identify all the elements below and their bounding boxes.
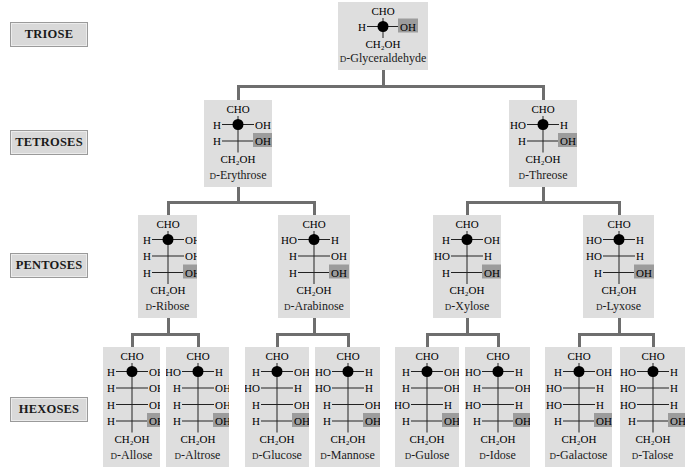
right-substituent: OH <box>515 382 530 394</box>
left-substituent: HO <box>465 366 481 378</box>
left-substituent: H <box>107 415 115 427</box>
right-substituent: OH <box>149 415 160 427</box>
sugar-talose: CHOHOHHOHHOHHOHCH₂OHD-Talose <box>620 347 685 467</box>
left-substituent: H <box>594 267 602 279</box>
stereocenter-dot-icon <box>462 234 473 245</box>
left-substituent: H <box>358 21 366 33</box>
aldehyde-group: CHO <box>607 218 630 230</box>
right-substituent: OH <box>484 234 500 246</box>
sugar-mannose: CHOHOHHOHHOHHOHCH₂OHD-Mannose <box>315 347 380 467</box>
connector-line <box>466 201 469 215</box>
right-substituent: H <box>215 366 223 378</box>
sugar-name: D-Glyceraldehyde <box>338 51 428 66</box>
right-substituent: H <box>294 382 302 394</box>
connector-line <box>197 333 200 347</box>
connector-line <box>313 201 316 215</box>
connector-line <box>652 333 655 347</box>
left-substituent: H <box>213 119 221 131</box>
left-substituent: HO <box>546 399 562 411</box>
left-substituent: HO <box>245 382 260 394</box>
right-substituent: OH <box>149 382 160 394</box>
right-substituent: OH <box>149 399 160 411</box>
left-substituent: HO <box>434 250 450 262</box>
level-label-pentoses: PENTOSES <box>10 253 88 278</box>
stereocenter-dot-icon <box>163 234 174 245</box>
connector-line <box>276 333 350 336</box>
aldehyde-group: CHO <box>486 350 509 362</box>
left-substituent: H <box>628 415 636 427</box>
connector-line <box>466 318 469 334</box>
hydroxymethyl-group: CH₂OH <box>561 433 596 445</box>
left-substituent: H <box>143 267 151 279</box>
aldehyde-group: CHO <box>641 350 664 362</box>
left-substituent: HO <box>586 234 602 246</box>
right-substituent: OH <box>215 415 229 427</box>
right-substituent: OH <box>515 415 530 427</box>
aldehyde-group: CHO <box>302 218 325 230</box>
connector-line <box>347 333 350 347</box>
sugar-name: D-Glucose <box>245 448 309 463</box>
right-substituent: H <box>670 399 678 411</box>
right-substituent: H <box>484 250 492 262</box>
hydroxymethyl-group: CH₂OH <box>180 433 215 445</box>
stereocenter-dot-icon <box>422 366 433 377</box>
left-substituent: H <box>143 234 151 246</box>
right-substituent: OH <box>560 135 576 147</box>
left-substituent: H <box>252 399 260 411</box>
left-substituent: H <box>442 267 450 279</box>
left-substituent: HO <box>620 399 636 411</box>
right-substituent: OH <box>400 21 416 33</box>
right-substituent: H <box>515 366 523 378</box>
right-substituent: H <box>331 234 339 246</box>
left-substituent: H <box>473 382 481 394</box>
right-substituent: OH <box>294 399 309 411</box>
sugar-name: D-Gulose <box>395 448 459 463</box>
aldehyde-group: CHO <box>371 5 394 17</box>
hydroxymethyl-group: CH₂OH <box>114 433 149 445</box>
sugar-name: D-Galactose <box>545 448 612 463</box>
left-substituent: H <box>213 135 221 147</box>
hydroxymethyl-group: CH₂OH <box>409 433 444 445</box>
left-substituent: HO <box>281 234 297 246</box>
connector-line <box>618 201 621 215</box>
left-substituent: HO <box>620 366 636 378</box>
aldehyde-group: CHO <box>265 350 288 362</box>
sugar-glucose: CHOHOHHOHHOHHOHCH₂OHD-Glucose <box>245 347 309 467</box>
connector-line <box>313 318 316 334</box>
aldehyde-group: CHO <box>455 218 478 230</box>
sugar-name: D-Altrose <box>166 448 229 463</box>
sugar-name: D-Allose <box>103 448 160 463</box>
aldehyde-group: CHO <box>415 350 438 362</box>
stereocenter-dot-icon <box>574 366 585 377</box>
connector-line <box>382 70 385 86</box>
right-substituent: OH <box>365 415 380 427</box>
stereocenter-dot-icon <box>493 366 504 377</box>
connector-line <box>578 333 581 347</box>
connector-line <box>426 333 500 336</box>
connector-line <box>237 187 240 202</box>
left-substituent: HO <box>315 366 331 378</box>
left-substituent: H <box>173 415 181 427</box>
left-substituent: HO <box>586 250 602 262</box>
right-substituent: OH <box>596 366 612 378</box>
right-substituent: H <box>636 234 644 246</box>
right-substituent: OH <box>294 415 309 427</box>
connector-line <box>276 333 279 347</box>
stereocenter-dot-icon <box>193 366 204 377</box>
hydroxymethyl-group: CH₂OH <box>220 153 255 165</box>
right-substituent: OH <box>215 399 229 411</box>
left-substituent: H <box>402 366 410 378</box>
aldehyde-group: CHO <box>120 350 143 362</box>
connector-line <box>237 85 545 88</box>
stereocenter-dot-icon <box>538 119 549 130</box>
stereocenter-dot-icon <box>378 21 389 32</box>
right-substituent: H <box>596 399 604 411</box>
sugar-name: D-Idose <box>465 448 530 463</box>
hydroxymethyl-group: CH₂OH <box>365 38 400 50</box>
sugar-name: D-Arabinose <box>278 299 350 314</box>
level-label-tetroses: TETROSES <box>10 130 88 155</box>
stereocenter-dot-icon <box>614 234 625 245</box>
hydroxymethyl-group: CH₂OH <box>601 284 636 296</box>
right-substituent: OH <box>596 415 612 427</box>
sugar-threose: CHOHOHHOHCH₂OHD-Threose <box>509 100 577 187</box>
